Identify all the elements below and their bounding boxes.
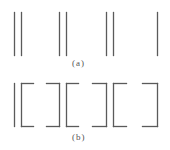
close-bracket-shape bbox=[143, 84, 158, 127]
panel-a-vertical-lines bbox=[15, 13, 158, 56]
panel-b-brackets bbox=[15, 84, 158, 127]
panel-a-caption: (a) bbox=[72, 58, 85, 68]
open-bracket-shape bbox=[114, 84, 127, 127]
open-bracket-shape bbox=[67, 84, 79, 127]
panel-b-caption: (b) bbox=[72, 132, 86, 142]
figure: (a) (b) bbox=[0, 0, 170, 150]
close-bracket-shape bbox=[47, 84, 60, 127]
close-bracket-shape bbox=[93, 84, 107, 127]
open-bracket-shape bbox=[22, 84, 34, 127]
line-grouping-diagram bbox=[0, 0, 170, 150]
